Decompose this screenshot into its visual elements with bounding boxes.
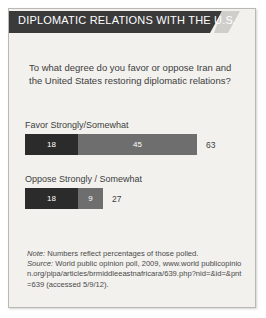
- bar-group-favor: Favor Strongly/Somewhat 18 45 63: [25, 120, 241, 155]
- figure-card: DIPLOMATIC RELATIONS WITH THE U.S. To wh…: [8, 8, 256, 308]
- figure-notes: Note: Numbers reflect percentages of tho…: [27, 249, 243, 290]
- stacked-bar-oppose: 18 9 27: [25, 188, 241, 209]
- poll-question: To what degree do you favor or oppose Ir…: [29, 61, 239, 87]
- bar-segment-oppose-somewhat: 9: [78, 188, 103, 209]
- stacked-bar-favor: 18 45 63: [25, 134, 241, 155]
- note-label: Note:: [27, 249, 45, 258]
- note-line: Note: Numbers reflect percentages of tho…: [27, 249, 243, 259]
- bar-segment-oppose-strongly: 18: [25, 188, 78, 209]
- bar-segment-favor-somewhat: 45: [78, 134, 197, 155]
- note-text: Numbers reflect percentages of those pol…: [45, 249, 198, 258]
- source-label: Source:: [27, 259, 53, 268]
- bar-total-favor: 63: [197, 134, 215, 155]
- source-text: World public opinion poll, 2009, www.wor…: [27, 259, 241, 288]
- bar-group-oppose: Oppose Strongly / Somewhat 18 9 27: [25, 174, 241, 209]
- bar-label-favor: Favor Strongly/Somewhat: [25, 120, 241, 130]
- figure-title: DIPLOMATIC RELATIONS WITH THE U.S.: [18, 14, 236, 26]
- source-line: Source: World public opinion poll, 2009,…: [27, 259, 243, 290]
- bar-label-oppose: Oppose Strongly / Somewhat: [25, 174, 241, 184]
- figure-header: DIPLOMATIC RELATIONS WITH THE U.S.: [9, 11, 255, 33]
- bar-segment-favor-strongly: 18: [25, 134, 78, 155]
- bar-total-oppose: 27: [103, 188, 121, 209]
